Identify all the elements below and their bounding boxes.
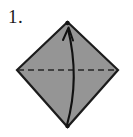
origami-diagram [0,0,133,137]
paper-diamond-shape [17,22,118,127]
origami-figure: 1. [0,0,133,137]
bottom-vertex-dot [65,124,69,128]
top-vertex-dot [65,21,69,25]
